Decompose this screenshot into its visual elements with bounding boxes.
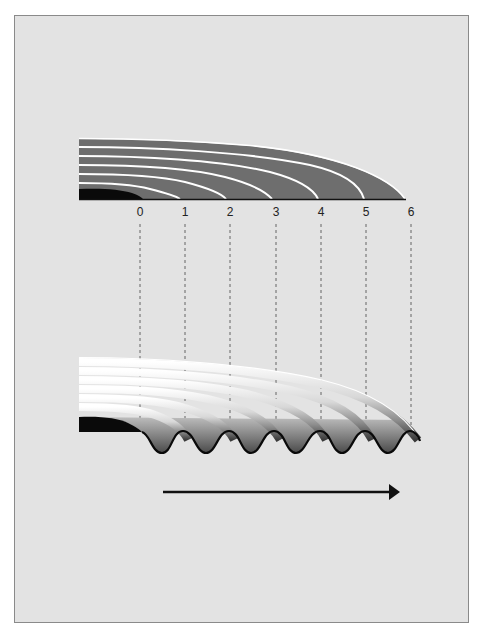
diagram-canvas: 0 1 2 3 4 5 6 [0, 0, 480, 641]
scale-label-3: 3 [273, 205, 280, 219]
arrow-head-icon [389, 484, 400, 500]
bottom-diagram [79, 358, 420, 454]
direction-arrow [163, 484, 400, 500]
top-diagram [79, 139, 406, 200]
scale-label-6: 6 [408, 205, 415, 219]
scale-label-5: 5 [363, 205, 370, 219]
scale-label-4: 4 [318, 205, 325, 219]
scale-label-2: 2 [227, 205, 234, 219]
scale-label-0: 0 [137, 205, 144, 219]
scale-label-1: 1 [182, 205, 189, 219]
